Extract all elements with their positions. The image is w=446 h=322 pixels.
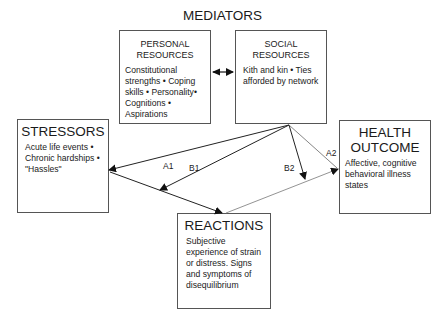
path-label-a2: A2 <box>326 148 336 158</box>
reactions-to-health-line <box>226 169 338 213</box>
connector-lines <box>0 0 446 322</box>
stressors-to-reactions-line <box>110 172 222 213</box>
path-b1-line <box>160 125 289 190</box>
path-label-b1: B1 <box>189 163 199 173</box>
path-label-b2: B2 <box>284 163 294 173</box>
path-label-a1: A1 <box>163 161 173 171</box>
path-a2-line <box>289 125 337 168</box>
double-arrow-icon <box>212 69 233 76</box>
